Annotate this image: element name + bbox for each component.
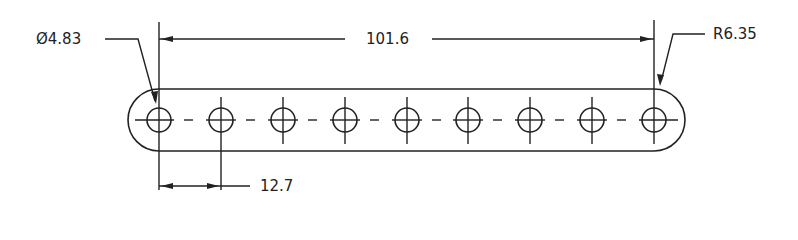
dim-hole-pitch: 12.7 bbox=[260, 179, 293, 194]
radius-leader bbox=[662, 34, 705, 78]
dim-hole-diameter: Ø4.83 bbox=[36, 32, 81, 47]
dim-end-radius: R6.35 bbox=[713, 27, 757, 42]
dim-overall-span: 101.6 bbox=[366, 32, 409, 47]
